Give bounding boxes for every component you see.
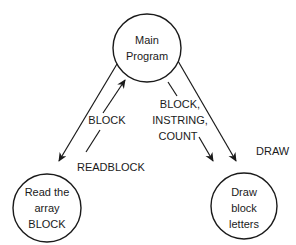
readblock-leader-line <box>86 130 100 152</box>
node-main-line-1: Main <box>135 34 159 46</box>
node-draw-line-2: block <box>231 202 257 214</box>
node-main-line-2: Program <box>126 50 168 62</box>
node-draw-line-3: letters <box>229 218 259 230</box>
node-draw-block-letters: Draw block letters <box>211 173 277 239</box>
node-read-line-3: BLOCK <box>28 218 66 230</box>
call-edge-draw <box>178 61 236 161</box>
node-main-program: Main Program <box>113 14 181 82</box>
node-read-line-1: Read the <box>25 186 70 198</box>
call-edge-readblock <box>59 64 117 161</box>
label-readblock: READBLOCK <box>77 161 146 173</box>
label-flow-line-1: BLOCK, <box>160 98 200 110</box>
label-draw: DRAW <box>256 145 290 157</box>
data-flow-to-draw <box>199 137 213 161</box>
label-flow-line-2: INSTRING, <box>152 114 208 126</box>
node-read-block: Read the array BLOCK <box>13 174 81 242</box>
flow-label-leader-line <box>168 82 177 96</box>
label-flow-line-3: COUNT <box>158 130 197 142</box>
label-block-up: BLOCK <box>88 114 126 126</box>
node-draw-line-1: Draw <box>231 186 257 198</box>
node-read-line-2: array <box>34 202 60 214</box>
structure-chart-diagram: Main Program Read the array BLOCK Draw b… <box>0 0 296 245</box>
data-flow-block-up <box>103 80 125 113</box>
